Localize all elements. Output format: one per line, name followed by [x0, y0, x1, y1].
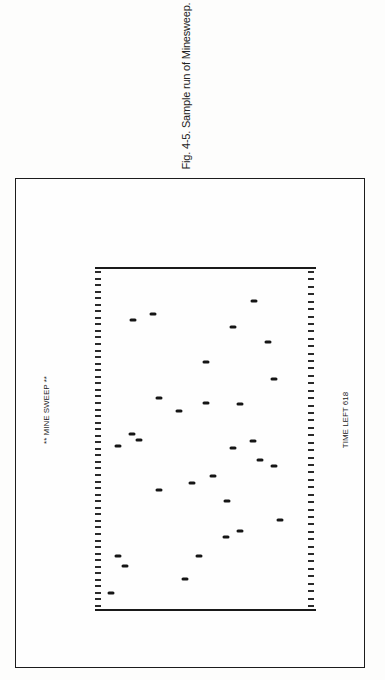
edge-tick	[95, 592, 101, 594]
mine-marker	[108, 592, 115, 595]
mine-marker	[271, 465, 278, 468]
right-edge-ticks	[308, 271, 314, 607]
edge-tick	[308, 479, 314, 481]
mine-marker	[223, 536, 230, 539]
edge-tick	[95, 454, 101, 456]
edge-tick	[95, 520, 101, 522]
mine-marker	[230, 447, 237, 450]
edge-tick	[308, 449, 314, 451]
edge-tick	[95, 330, 101, 332]
edge-tick	[95, 428, 101, 430]
mine-marker	[189, 482, 196, 485]
edge-tick	[308, 338, 314, 340]
mine-marker	[237, 530, 244, 533]
mine-marker	[265, 341, 272, 344]
edge-tick	[95, 317, 101, 319]
edge-tick	[308, 516, 314, 518]
mine-marker	[196, 555, 203, 558]
edge-tick	[308, 316, 314, 318]
mine-marker	[136, 439, 143, 442]
edge-tick	[308, 509, 314, 511]
edge-tick	[95, 369, 101, 371]
edge-tick	[95, 271, 101, 273]
mine-marker	[182, 578, 189, 581]
edge-tick	[308, 367, 314, 369]
edge-tick	[308, 405, 314, 407]
edge-tick	[308, 546, 314, 548]
mine-marker	[130, 319, 137, 322]
minefield	[95, 267, 316, 611]
mine-marker	[224, 500, 231, 503]
edge-tick	[308, 308, 314, 310]
edge-tick	[308, 375, 314, 377]
edge-tick	[95, 579, 101, 581]
edge-tick	[308, 590, 314, 592]
edge-tick	[308, 419, 314, 421]
edge-tick	[95, 356, 101, 358]
edge-tick	[308, 278, 314, 280]
edge-tick	[95, 598, 101, 600]
edge-tick	[95, 376, 101, 378]
edge-tick	[95, 304, 101, 306]
edge-tick	[95, 559, 101, 561]
mine-marker	[251, 300, 258, 303]
mine-marker	[203, 361, 210, 364]
edge-tick	[95, 363, 101, 365]
edge-tick	[95, 481, 101, 483]
edge-tick	[95, 572, 101, 574]
edge-tick	[95, 540, 101, 542]
edge-tick	[308, 271, 314, 273]
edge-tick	[308, 553, 314, 555]
mine-marker	[156, 397, 163, 400]
edge-tick	[308, 575, 314, 577]
edge-tick	[308, 568, 314, 570]
edge-tick	[308, 471, 314, 473]
edge-tick	[308, 501, 314, 503]
edge-tick	[308, 301, 314, 303]
edge-tick	[95, 441, 101, 443]
edge-tick	[95, 422, 101, 424]
mine-marker	[203, 402, 210, 405]
edge-tick	[95, 474, 101, 476]
edge-tick	[95, 533, 101, 535]
edge-tick	[95, 402, 101, 404]
edge-tick	[308, 486, 314, 488]
edge-tick	[95, 284, 101, 286]
edge-tick	[95, 605, 101, 607]
edge-tick	[95, 350, 101, 352]
edge-tick	[308, 583, 314, 585]
edge-tick	[308, 330, 314, 332]
edge-tick	[95, 336, 101, 338]
edge-tick	[95, 500, 101, 502]
figure-caption: Fig. 4-5. Sample run of Minesweep.	[180, 3, 192, 170]
edge-tick	[308, 538, 314, 540]
edge-tick	[308, 464, 314, 466]
mine-marker	[156, 489, 163, 492]
edge-tick	[308, 345, 314, 347]
edge-tick	[308, 560, 314, 562]
edge-tick	[308, 293, 314, 295]
time-left-display: TIME LEFT 618	[341, 392, 350, 448]
edge-tick	[95, 415, 101, 417]
edge-tick	[308, 390, 314, 392]
edge-tick	[308, 523, 314, 525]
edge-tick	[308, 605, 314, 607]
edge-tick	[95, 310, 101, 312]
mine-marker	[176, 410, 183, 413]
edge-tick	[95, 389, 101, 391]
edge-tick	[95, 494, 101, 496]
edge-tick	[308, 531, 314, 533]
mine-marker	[230, 326, 237, 329]
left-edge-ticks	[95, 271, 101, 607]
minefield-bottom-border	[95, 609, 316, 611]
edge-tick	[308, 397, 314, 399]
edge-tick	[308, 442, 314, 444]
edge-tick	[95, 526, 101, 528]
edge-tick	[308, 353, 314, 355]
edge-tick	[95, 382, 101, 384]
edge-tick	[308, 286, 314, 288]
edge-tick	[95, 546, 101, 548]
edge-tick	[95, 585, 101, 587]
mine-marker	[115, 555, 122, 558]
mine-marker	[129, 433, 136, 436]
